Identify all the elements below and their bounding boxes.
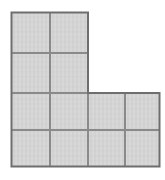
tile-r2c2	[50, 53, 88, 93]
tile-r3c3	[88, 93, 125, 130]
tile-r1c2	[50, 12, 88, 53]
tile-r3c2	[50, 93, 88, 130]
polyomino-figure	[0, 0, 165, 180]
tile-r4c3	[88, 130, 125, 167]
tile-r4c4	[125, 130, 160, 167]
tile-r1c1	[11, 12, 50, 53]
tile-r4c1	[11, 130, 50, 167]
tile-r4c2	[50, 130, 88, 167]
tile-r3c1	[11, 93, 50, 130]
tile-r2c1	[11, 53, 50, 93]
tile-r3c4	[125, 93, 160, 130]
